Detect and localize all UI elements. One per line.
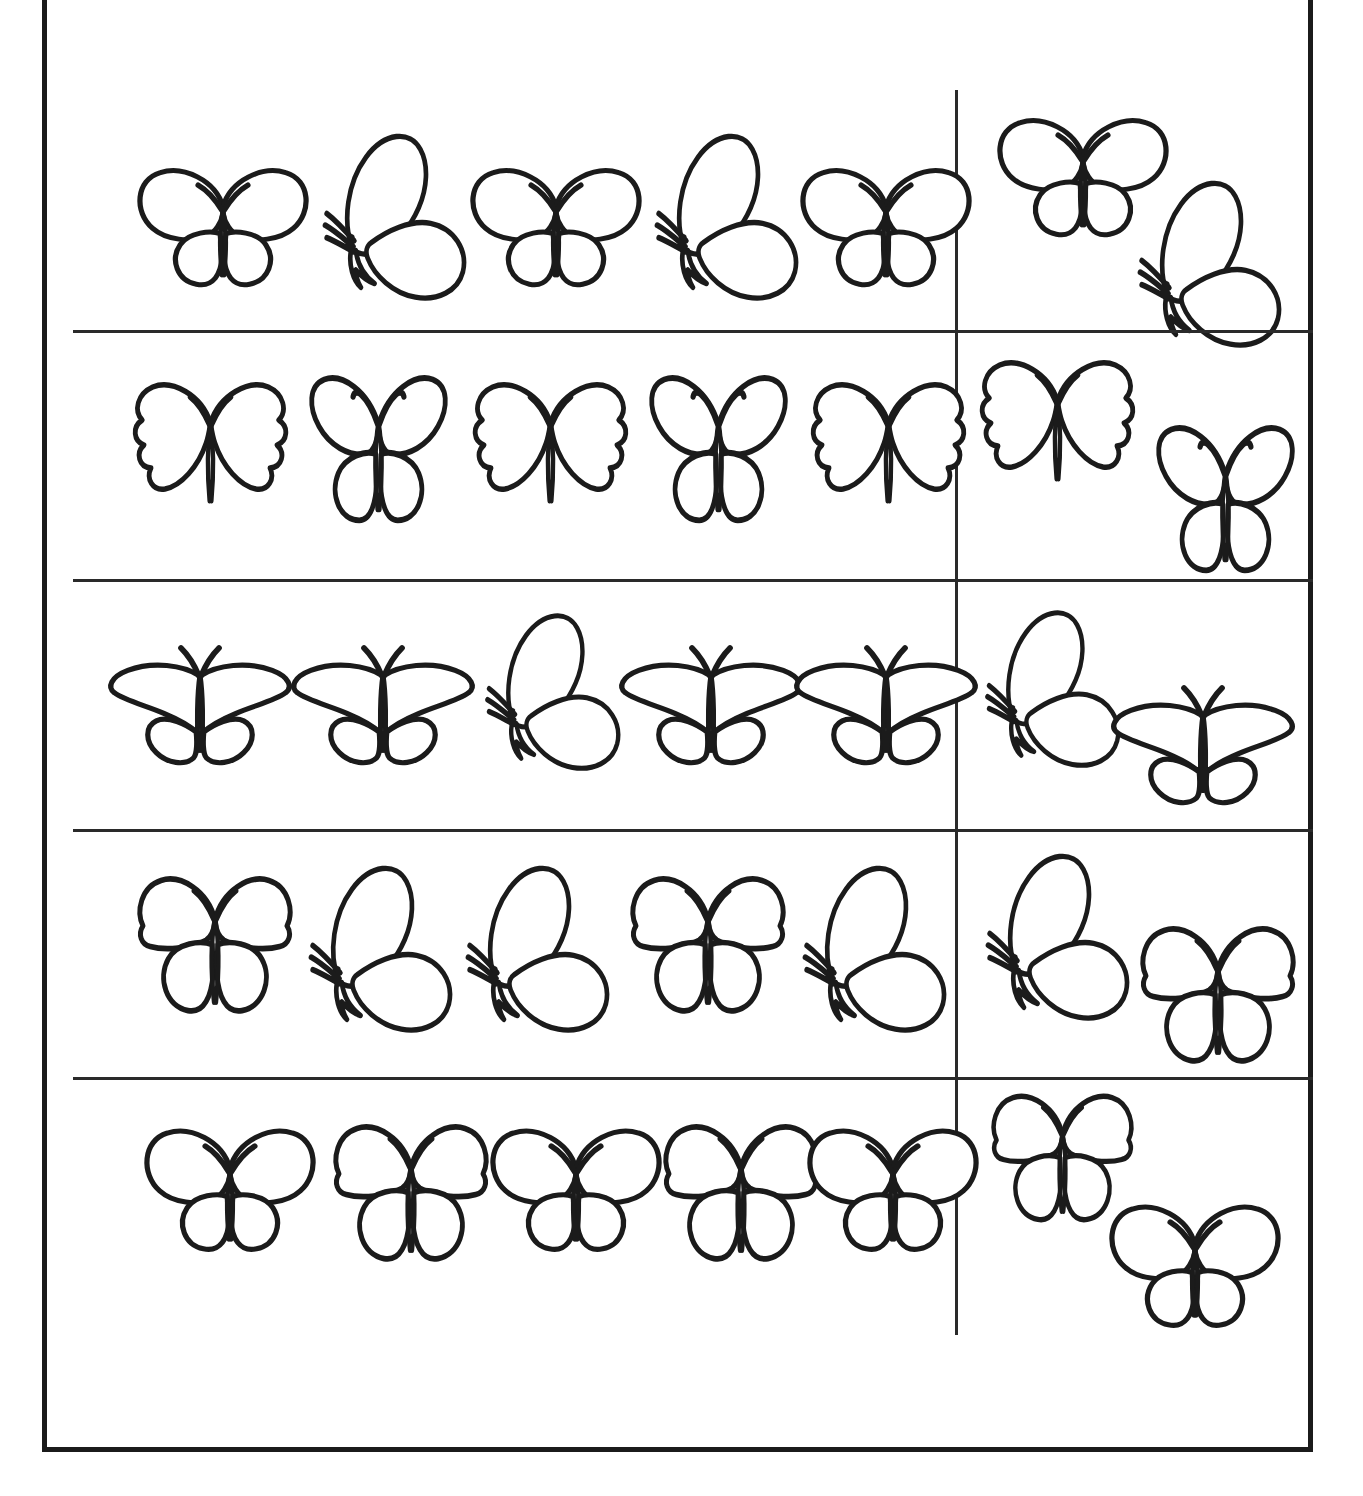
row-1-right-cell [960, 90, 1313, 330]
wide-flat-wing-butterfly [616, 635, 806, 775]
bottom-heavy-wing-butterfly [125, 868, 305, 1023]
scalloped-wing-butterfly [123, 375, 298, 525]
side-view-butterfly [795, 860, 965, 1035]
scalloped-wing-butterfly [801, 375, 976, 525]
side-view-butterfly [478, 608, 638, 773]
lobed-wing-butterfly [291, 371, 466, 531]
side-view-butterfly [315, 128, 485, 303]
worksheet-row-2 [47, 333, 1308, 576]
side-view-butterfly [301, 860, 471, 1035]
row-divider-2 [73, 579, 1313, 582]
row-3-right-cell [960, 580, 1313, 826]
bottom-heavy-wing-butterfly [618, 868, 798, 1023]
side-view-butterfly [1130, 175, 1300, 350]
row-divider-4 [73, 1077, 1313, 1080]
row-4-left-cell [73, 830, 955, 1075]
side-view-butterfly [458, 860, 628, 1035]
round-wing-butterfly [481, 1120, 671, 1260]
round-wing-butterfly [1100, 1196, 1290, 1336]
scalloped-wing-butterfly [970, 353, 1145, 503]
row-divider-3 [73, 829, 1313, 832]
row-divider-1 [73, 330, 1313, 333]
row-5-left-cell [73, 1078, 955, 1335]
worksheet-page [0, 0, 1363, 1496]
lobed-wing-butterfly [631, 371, 806, 531]
wide-flat-wing-butterfly [791, 635, 981, 775]
wide-flat-wing-butterfly [1108, 675, 1298, 815]
round-wing-butterfly [135, 1120, 325, 1260]
worksheet-row-4 [47, 830, 1308, 1075]
row-4-right-cell [960, 830, 1313, 1075]
row-1-left-cell [73, 90, 955, 330]
row-2-right-cell [960, 333, 1313, 576]
bottom-heavy-wing-butterfly [321, 1116, 501, 1271]
bottom-heavy-wing-butterfly [1128, 918, 1308, 1073]
row-2-left-cell [73, 333, 955, 576]
sheet-frame [42, 0, 1313, 1452]
worksheet-row-3 [47, 580, 1308, 826]
lobed-wing-butterfly [1138, 421, 1313, 581]
wide-flat-wing-butterfly [105, 635, 295, 775]
worksheet-row-5 [47, 1078, 1308, 1335]
round-wing-butterfly [461, 160, 651, 295]
side-view-butterfly [978, 848, 1148, 1023]
row-5-right-cell [960, 1078, 1313, 1335]
round-wing-butterfly [128, 160, 318, 295]
round-wing-butterfly [791, 160, 981, 295]
wide-flat-wing-butterfly [288, 635, 478, 775]
row-3-left-cell [73, 580, 955, 826]
worksheet-row-1 [47, 90, 1308, 330]
scalloped-wing-butterfly [463, 375, 638, 525]
